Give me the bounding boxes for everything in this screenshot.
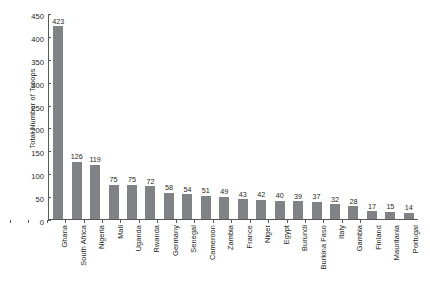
bar[interactable] [385, 212, 395, 219]
bar[interactable] [367, 211, 377, 219]
bar-value-label: 14 [405, 204, 413, 211]
bar-slot: 39 [289, 14, 307, 219]
bar-slot: 14 [400, 14, 418, 219]
x-tick [112, 220, 130, 223]
x-tick-mark [47, 220, 48, 223]
y-tick-label: 350 [31, 58, 48, 67]
bar[interactable] [164, 193, 174, 219]
bar[interactable] [201, 196, 211, 219]
bar-value-label: 28 [349, 198, 357, 205]
bar-value-label: 43 [239, 191, 247, 198]
x-tick-mark [28, 220, 29, 223]
bar[interactable] [293, 201, 303, 219]
x-tick-mark [231, 220, 232, 223]
x-label-slot: Gambia [343, 225, 361, 287]
bar-value-label: 75 [110, 176, 118, 183]
y-tick-250: 250 [31, 97, 48, 115]
x-tick-mark [268, 220, 269, 223]
y-tick-label: 400 [31, 35, 48, 44]
bar-slot: 49 [215, 14, 233, 219]
x-label-slot: South Africa [66, 225, 84, 287]
x-label-slot: Finland [362, 225, 380, 287]
x-tick [56, 220, 74, 223]
bar[interactable] [90, 165, 100, 219]
x-label-slot: France [233, 225, 251, 287]
bar-slot: 42 [252, 14, 270, 219]
x-label-slot: Nigeria [85, 225, 103, 287]
x-tick [149, 220, 167, 223]
bar-slot: 51 [197, 14, 215, 219]
x-tick [259, 220, 277, 223]
bar-slot: 32 [326, 14, 344, 219]
bar[interactable] [348, 206, 358, 219]
x-axis-label: Portugal [411, 225, 420, 253]
x-label-slot: Italy [325, 225, 343, 287]
x-label-slot: Germany [159, 225, 177, 287]
bar[interactable] [53, 26, 63, 219]
plot-area: 050100150200250300350400450 423126119757… [48, 14, 418, 220]
bar-value-label: 49 [220, 188, 228, 195]
x-tick-mark [84, 220, 85, 223]
bar[interactable] [404, 213, 414, 219]
bar[interactable] [182, 194, 192, 219]
x-tick-mark [139, 220, 140, 223]
x-tick [38, 220, 56, 223]
y-tick-label: 150 [31, 149, 48, 158]
bar-value-label: 72 [146, 178, 154, 185]
x-tick [204, 220, 222, 223]
x-tick-mark [10, 220, 11, 223]
x-label-slot: Rwanda [140, 225, 158, 287]
bar-value-label: 126 [71, 153, 83, 160]
y-tick-100: 100 [31, 165, 48, 183]
x-label-slot: Zambia [214, 225, 232, 287]
bar[interactable] [256, 200, 266, 219]
bar-slot: 75 [123, 14, 141, 219]
bar[interactable] [109, 185, 119, 219]
bar-value-label: 42 [257, 191, 265, 198]
bar-slot: 15 [381, 14, 399, 219]
bar-value-label: 17 [368, 203, 376, 210]
y-tick-50: 50 [36, 188, 48, 206]
x-axis-labels: GhanaSouth AfricaNigeriaMaliUgandaRwanda… [48, 225, 417, 287]
bar[interactable] [238, 199, 248, 219]
y-tick-label: 200 [31, 126, 48, 135]
bar[interactable] [312, 202, 322, 219]
bar[interactable] [127, 185, 137, 219]
bar-slot: 54 [178, 14, 196, 219]
bar-value-label: 54 [183, 186, 191, 193]
x-label-slot: Portugal [399, 225, 417, 287]
bar[interactable] [275, 201, 285, 219]
bar-slot: 40 [270, 14, 288, 219]
bar-slot: 126 [67, 14, 85, 219]
x-tick [186, 220, 204, 223]
bar-value-label: 119 [89, 156, 100, 163]
x-tick-mark [287, 220, 288, 223]
x-tick [93, 220, 111, 223]
x-tick [167, 220, 185, 223]
bar[interactable] [72, 162, 82, 219]
bar-value-label: 39 [294, 193, 302, 200]
x-tick-mark [102, 220, 103, 223]
x-tick [296, 220, 314, 223]
x-tick-mark [157, 220, 158, 223]
y-tick-label: 250 [31, 104, 48, 113]
x-tick-mark [323, 220, 324, 223]
y-tick-label: 100 [31, 172, 48, 181]
bar[interactable] [145, 186, 155, 219]
bar-value-label: 32 [331, 196, 339, 203]
x-tick-mark [120, 220, 121, 223]
bar-value-label: 40 [276, 192, 284, 199]
y-tick-label: 300 [31, 81, 48, 90]
x-label-slot: Senegal [177, 225, 195, 287]
bar[interactable] [219, 197, 229, 219]
bar-slot: 17 [363, 14, 381, 219]
x-tick [75, 220, 93, 223]
bar[interactable] [330, 204, 340, 219]
bar-value-label: 15 [386, 203, 394, 210]
x-tick-mark [213, 220, 214, 223]
bar-slot: 58 [160, 14, 178, 219]
y-tick-350: 350 [31, 51, 48, 69]
y-tick-450: 450 [31, 5, 48, 23]
bar-slot: 72 [141, 14, 159, 219]
x-label-slot: Mali [103, 225, 121, 287]
